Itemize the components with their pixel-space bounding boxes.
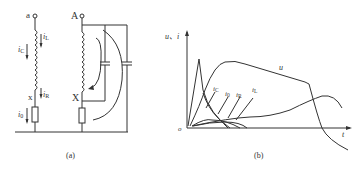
label-x: x [28, 92, 33, 102]
right-coil [82, 32, 84, 92]
label-X: X [72, 92, 80, 103]
label-A: A [71, 10, 79, 21]
label-iR: iR [43, 90, 49, 99]
curve-u [190, 61, 348, 150]
right-resistor [79, 108, 85, 123]
figure: a A x X iL iC iR i0 (a) u、i [0, 0, 364, 172]
terminal-a [33, 14, 37, 18]
left-coil [35, 30, 37, 90]
label-i0-b: i0 [225, 90, 230, 98]
outer-loop-arrow [93, 30, 122, 120]
origin-label: o [178, 125, 182, 133]
panel-b-waveforms: u、i t o u iC i0 iR iL (b) [165, 30, 352, 160]
label-i0: i0 [18, 110, 23, 119]
label-iL: iL [43, 32, 49, 41]
label-iR-b: iR [236, 91, 242, 99]
label-iC-b: iC [213, 85, 219, 93]
left-resistor [32, 107, 38, 122]
caption-a: (a) [66, 151, 75, 160]
label-iC: iC [18, 45, 24, 54]
label-iL-b: iL [252, 86, 258, 94]
label-u: u [279, 63, 283, 72]
panel-a-circuit: a A x X iL iC iR i0 (a) [15, 10, 132, 160]
caption-b: (b) [254, 151, 264, 160]
terminal-A [80, 14, 84, 18]
x-axis-label: t [342, 130, 345, 139]
inner-loop-arrow [91, 38, 101, 88]
label-a: a [26, 10, 30, 20]
y-axis-label: u、i [165, 32, 179, 41]
